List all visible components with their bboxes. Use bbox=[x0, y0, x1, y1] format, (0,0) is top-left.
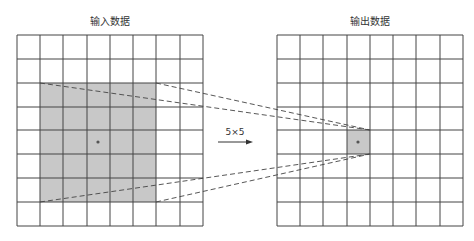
output-grid bbox=[277, 35, 463, 226]
input-center-dot bbox=[96, 140, 99, 143]
kernel-size-label: 5×5 bbox=[226, 127, 245, 137]
convolution-diagram: 5×5 输入数据 输出数据 bbox=[0, 0, 474, 241]
kernel-arrow bbox=[218, 140, 253, 145]
output-center-dot bbox=[356, 140, 359, 143]
input-grid-title: 输入数据 bbox=[90, 15, 130, 27]
arrow-head-icon bbox=[246, 140, 253, 145]
output-grid-title: 输出数据 bbox=[350, 15, 390, 27]
